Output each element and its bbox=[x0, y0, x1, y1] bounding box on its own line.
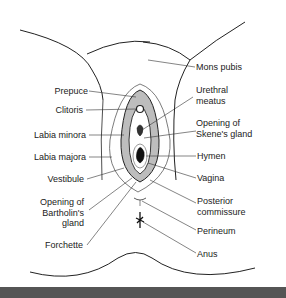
label-vestibule: Vestibule bbox=[47, 174, 84, 185]
right-thigh-outline bbox=[174, 60, 190, 180]
label-hymen: Hymen bbox=[197, 151, 226, 162]
label-anus: Anus bbox=[197, 249, 218, 260]
label-forchette: Forchette bbox=[45, 240, 83, 251]
label-urethral-meatus: Urethral meatus bbox=[196, 85, 228, 106]
clitoris-shape bbox=[137, 106, 144, 113]
bottom-border-bar bbox=[0, 287, 286, 298]
anus-shape bbox=[136, 212, 144, 228]
label-perineum: Perineum bbox=[197, 226, 236, 237]
label-prepuce: Prepuce bbox=[54, 86, 88, 97]
label-labia-minora: Labia minora bbox=[34, 130, 86, 141]
diagram-drawing bbox=[0, 0, 286, 298]
label-posterior-commissure: Posterior commissure bbox=[197, 196, 246, 217]
label-vagina: Vagina bbox=[197, 173, 224, 184]
label-labia-majora: Labia majora bbox=[34, 152, 86, 163]
label-mons-pubis: Mons pubis bbox=[196, 62, 242, 73]
anatomy-diagram: Prepuce Clitoris Labia minora Labia majo… bbox=[0, 0, 286, 298]
label-skene: Opening of Skene's gland bbox=[196, 118, 252, 139]
label-bartholin: Opening of Bartholin's gland bbox=[40, 197, 84, 229]
label-clitoris: Clitoris bbox=[55, 105, 83, 116]
